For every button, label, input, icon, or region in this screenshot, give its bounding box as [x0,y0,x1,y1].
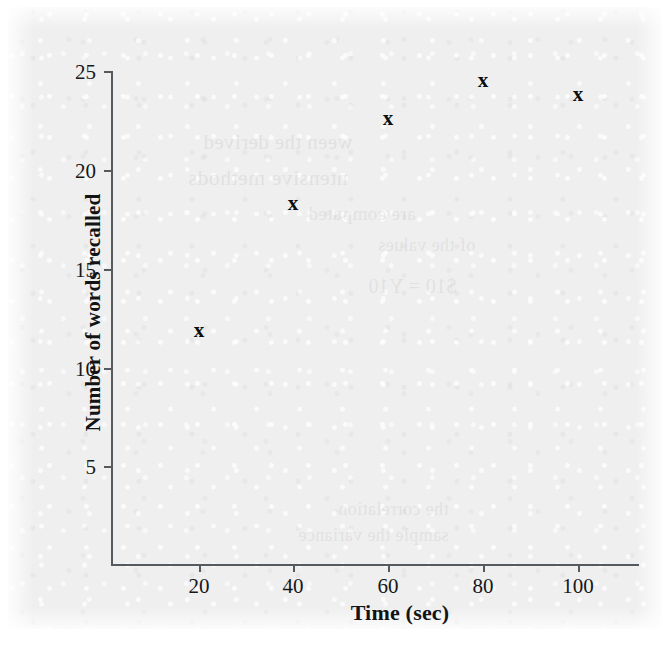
x-axis-tick [483,564,485,572]
x-axis-title: Time (sec) [250,600,550,626]
x-axis-tick [199,564,201,572]
scanned-figure-page: ween the derived ntensive methods are co… [0,0,666,654]
data-point-marker: x [377,106,399,130]
x-axis-tick-label: 40 [258,574,328,599]
x-axis-line [111,564,639,566]
data-point-marker: x [282,191,304,215]
data-point-marker: x [472,68,494,92]
x-axis-tick-label: 80 [448,574,518,599]
y-axis-line [111,71,113,566]
data-point-marker: x [567,82,589,106]
y-axis-tick [104,71,112,73]
data-point-marker: x [188,318,210,342]
y-axis-tick-label: 25 [50,60,96,85]
y-axis-title: Number of words recalled [81,153,106,473]
x-axis-tick [388,564,390,572]
x-axis-tick [578,564,580,572]
x-axis-tick-label: 20 [164,574,234,599]
x-axis-tick [293,564,295,572]
x-axis-tick-label: 100 [543,574,613,599]
scatter-plot: 25 20 15 10 5 20 40 60 80 100 Number of … [0,0,666,654]
x-axis-tick-label: 60 [353,574,423,599]
